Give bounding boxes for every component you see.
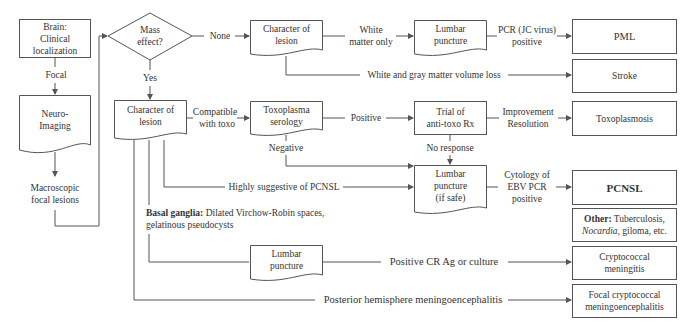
basal-line1: Basal ganglia: Dilated Virchow-Robin spa… <box>146 207 346 219</box>
other-bold-label: Other: <box>584 214 611 224</box>
basal-line2: gelatinous pseudocysts <box>146 219 346 231</box>
pml-label: PML <box>614 31 636 43</box>
focal-cryptococcal-box: Focal cryptococcal meningoencephalitis <box>572 284 677 318</box>
pml-outcome-box: PML <box>572 19 677 54</box>
label-white-gray-matter-loss: White and gray matter volume loss <box>362 69 506 81</box>
label-basal-ganglia: Basal ganglia: Dilated Virchow-Robin spa… <box>146 207 346 231</box>
label-none: None <box>205 30 235 42</box>
lp2-line2: puncture <box>434 180 467 192</box>
crypto-line2: meningitis <box>604 263 644 275</box>
lp1-line2: puncture <box>434 35 467 47</box>
neuro-imaging-box: Neuro- Imaging <box>19 105 91 135</box>
improve-line1: Improvement <box>497 106 559 118</box>
character-of-lesion-box-1: Character of lesion <box>250 22 323 48</box>
other-outcome-box: Other: Tuberculosis, Nocardia, giloma, e… <box>572 208 677 242</box>
focal-crypto-line2: meningoencephalitis <box>585 301 664 313</box>
basal-rest: Dilated Virchow-Robin spaces, <box>203 208 324 218</box>
lp2-line3: (if safe) <box>436 192 466 204</box>
label-no-response: No response <box>420 142 480 154</box>
stroke-outcome-box: Stroke <box>572 59 677 93</box>
char2-line2: lesion <box>139 116 162 128</box>
toxoplasmosis-outcome-box: Toxoplasmosis <box>572 101 677 136</box>
trial-line2: anti-toxo Rx <box>427 118 475 130</box>
lumbar-puncture-box-1: Lumbar puncture <box>414 22 487 48</box>
toxoplasmosis-label: Toxoplasmosis <box>596 113 653 125</box>
other-line2-rest: , giloma, etc. <box>618 226 667 236</box>
char1-line1: Character of <box>263 23 310 35</box>
mass-effect-decision: Mass effect? <box>120 22 180 50</box>
label-positive: Positive <box>346 112 386 124</box>
label-compatible-with-toxo: Compatible with toxo <box>189 106 241 130</box>
compat-line1: Compatible <box>189 106 241 118</box>
lumbar-puncture-if-safe-box: Lumbar puncture (if safe) <box>414 167 487 205</box>
lp1-line1: Lumbar <box>435 23 465 35</box>
label-negative: Negative <box>266 142 306 154</box>
other-line2: Nocardia, giloma, etc. <box>582 225 667 237</box>
lp2-line1: Lumbar <box>435 168 465 180</box>
toxoplasma-serology-box: Toxoplasma serology <box>250 103 323 129</box>
label-white-matter-only: White matter only <box>342 24 400 48</box>
neuro-line2: Imaging <box>39 120 71 132</box>
basal-bold: Basal ganglia: <box>146 208 203 218</box>
stroke-label: Stroke <box>612 70 637 82</box>
macro-line2: focal lesions <box>31 194 79 206</box>
trial-anti-toxo-box: Trial of anti-toxo Rx <box>414 101 487 135</box>
char1-line2: lesion <box>275 35 298 47</box>
label-highly-suggestive-pcnsl: Highly suggestive of PCNSL <box>227 181 341 193</box>
lumbar-puncture-box-3: Lumbar puncture <box>250 247 323 273</box>
label-cytology-ebv-pcr: Cytology of EBV PCR positive <box>497 169 557 205</box>
cyto-line2: EBV PCR <box>497 181 557 193</box>
trial-line1: Trial of <box>436 106 464 118</box>
label-positive-cr-ag: Positive CR Ag or culture <box>382 256 506 268</box>
brain-clinical-localization-box: Brain: Clinical localization <box>19 19 91 58</box>
label-pcr-jc-virus: PCR (JC virus) positive <box>494 24 560 48</box>
label-posterior-hemisphere: Posterior hemisphere meningoencephalitis <box>318 294 508 306</box>
improve-line2: Resolution <box>497 118 559 130</box>
cryptococcal-meningitis-box: Cryptococcal meningitis <box>572 246 677 280</box>
lp3-line2: puncture <box>270 260 303 272</box>
macro-line1: Macroscopic <box>30 182 79 194</box>
pcr-line2: positive <box>494 36 560 48</box>
cyto-line3: positive <box>497 193 557 205</box>
mass-line2: effect? <box>137 36 163 48</box>
pcnsl-label: PCNSL <box>606 182 642 194</box>
toxo-ser-line2: serology <box>270 116 303 128</box>
crypto-line1: Cryptococcal <box>599 251 650 263</box>
pcnsl-outcome-box: PCNSL <box>572 170 677 205</box>
character-of-lesion-box-2: Character of lesion <box>114 102 187 129</box>
neuro-line1: Neuro- <box>42 108 69 120</box>
mass-line1: Mass <box>140 24 160 36</box>
nocardia-label: Nocardia <box>582 226 618 236</box>
brain-line2: Clinical <box>40 33 70 45</box>
white-line1: White <box>342 24 400 36</box>
char2-line1: Character of <box>127 104 174 116</box>
brain-line3: localization <box>33 45 77 57</box>
lp3-line1: Lumbar <box>271 248 301 260</box>
macroscopic-focal-lesions-label: Macroscopic focal lesions <box>17 180 93 208</box>
compat-line2: with toxo <box>189 118 241 130</box>
other-line1-rest: Tuberculosis, <box>612 214 665 224</box>
brain-line1: Brain: <box>43 21 67 33</box>
toxo-ser-line1: Toxoplasma <box>263 104 309 116</box>
pcr-line1: PCR (JC virus) <box>494 24 560 36</box>
focal-crypto-line1: Focal cryptococcal <box>588 289 660 301</box>
label-focal: Focal <box>42 69 70 81</box>
white-line2: matter only <box>342 36 400 48</box>
label-improvement-resolution: Improvement Resolution <box>497 106 559 130</box>
other-line1: Other: Tuberculosis, <box>584 213 665 225</box>
cyto-line1: Cytology of <box>497 169 557 181</box>
label-yes: Yes <box>138 72 162 84</box>
